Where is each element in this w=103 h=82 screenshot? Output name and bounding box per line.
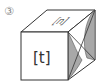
cube-diagram: ③ [n] [t]	[0, 0, 103, 82]
front-face-phoneme: [t]	[33, 49, 51, 67]
cube-svg: ③ [n] [t]	[0, 0, 103, 82]
figure-number-label: ③	[4, 5, 14, 18]
